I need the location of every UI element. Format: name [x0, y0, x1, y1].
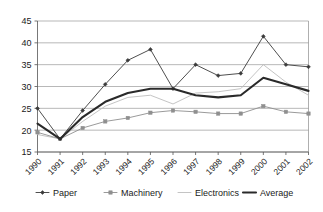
x-tick-label: 1996 [158, 156, 179, 177]
data-point-marker-machinery [262, 104, 265, 107]
y-tick-label: 20 [21, 126, 31, 136]
x-tick-label: 1998 [204, 156, 225, 177]
data-point-marker-machinery [216, 112, 219, 115]
chart-canvas: 4540353025201519901991199219931994199519… [0, 0, 323, 212]
data-point-marker-machinery [284, 110, 287, 113]
legend-label-average: Average [260, 188, 293, 198]
x-tick-label: 1994 [113, 156, 134, 177]
data-point-marker-machinery [81, 126, 84, 129]
x-tick-label: 1990 [23, 156, 44, 177]
data-point-marker-paper [216, 74, 220, 78]
y-tick-label: 35 [21, 60, 31, 70]
x-tick-label: 2001 [271, 156, 292, 177]
legend-swatch-marker-machinery [109, 191, 112, 194]
data-point-marker-machinery [104, 120, 107, 123]
y-tick-label: 45 [21, 16, 31, 26]
data-point-marker-machinery [149, 111, 152, 114]
y-tick-label: 30 [21, 82, 31, 92]
series-line-electronics [38, 65, 309, 139]
x-tick-label: 1995 [136, 156, 157, 177]
y-tick-label: 40 [21, 38, 31, 48]
x-tick-label: 2000 [249, 156, 270, 177]
y-tick-label: 25 [21, 104, 31, 114]
x-tick-label: 1992 [68, 156, 89, 177]
data-point-marker-paper [307, 65, 311, 69]
legend-label-electronics: Electronics [195, 188, 240, 198]
data-point-marker-machinery [126, 116, 129, 119]
data-point-marker-machinery [194, 110, 197, 113]
legend-label-paper: Paper [53, 188, 77, 198]
x-tick-label: 1999 [226, 156, 247, 177]
x-tick-label: 1993 [91, 156, 112, 177]
x-tick-label: 1991 [46, 156, 67, 177]
x-tick-label: 1997 [181, 156, 202, 177]
data-point-marker-machinery [171, 109, 174, 112]
data-point-marker-machinery [239, 112, 242, 115]
plot-area-wrapper: 4540353025201519901991199219931994199519… [0, 0, 323, 212]
x-tick-label: 2002 [294, 156, 315, 177]
data-point-marker-paper [149, 47, 153, 51]
y-tick-label: 15 [21, 147, 31, 157]
line-chart: 4540353025201519901991199219931994199519… [0, 0, 323, 212]
data-point-marker-machinery [36, 131, 39, 134]
legend-swatch-marker-paper [41, 191, 45, 195]
legend-label-machinery: Machinery [121, 188, 163, 198]
data-point-marker-machinery [307, 112, 310, 115]
